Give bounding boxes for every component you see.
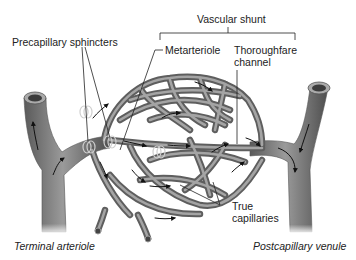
label-thoroughfare-channel-line2: channel (234, 56, 271, 68)
label-terminal-arteriole: Terminal arteriole (14, 240, 95, 252)
label-thoroughfare-channel-line1: Thoroughfare (234, 44, 297, 56)
label-metarteriole: Metarteriole (165, 44, 220, 56)
label-true-capillaries-line1: True (232, 200, 253, 212)
label-vascular-shunt: Vascular shunt (197, 13, 266, 25)
label-precapillary-sphincters: Precapillary sphincters (12, 36, 118, 48)
label-true-capillaries-line2: capillaries (232, 212, 279, 224)
capillary-bed-diagram: Vascular shunt Precapillary sphincters M… (0, 0, 356, 260)
label-postcapillary-venule: Postcapillary venule (253, 240, 346, 252)
